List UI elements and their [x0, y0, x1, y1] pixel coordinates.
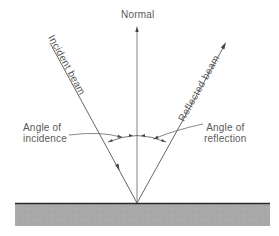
- label-leaders: [69, 124, 203, 140]
- reflected-arrow-icon: [221, 42, 226, 49]
- angle-of-reflection-label: Angle of reflection: [204, 122, 247, 144]
- normal-label: Normal: [121, 9, 154, 20]
- angle-of-reflection-line1: Angle of: [204, 122, 247, 133]
- reflecting-surface: [15, 204, 270, 227]
- angle-of-incidence-label: Angle of incidence: [23, 122, 67, 144]
- reflection-diagram: [0, 0, 279, 236]
- angle-of-reflection-line2: reflection: [204, 133, 247, 144]
- normal-line: [135, 26, 138, 203]
- angle-of-incidence-line1: Angle of: [23, 122, 67, 133]
- angle-of-incidence-line2: incidence: [23, 133, 67, 144]
